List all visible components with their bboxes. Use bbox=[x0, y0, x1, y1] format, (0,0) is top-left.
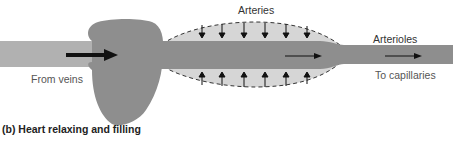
artery-lumen bbox=[160, 41, 453, 69]
heart-shape bbox=[88, 19, 163, 125]
figure-caption: (b) Heart relaxing and filling bbox=[2, 123, 141, 135]
label-arterioles: Arterioles bbox=[373, 34, 417, 45]
label-from-veins: From veins bbox=[31, 74, 83, 85]
label-to-capillaries: To capillaries bbox=[375, 70, 436, 81]
label-arteries: Arteries bbox=[238, 5, 274, 16]
